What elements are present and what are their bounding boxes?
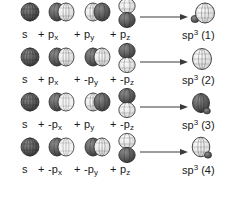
hybridization-row: s + -px + -py + pz sp3 (4)	[0, 135, 239, 185]
p-orbital-y-negative-icon	[84, 47, 112, 67]
p-orbital-z-negative-icon	[118, 88, 136, 118]
term-pz: + -pz	[110, 118, 134, 132]
term-px: + -px	[38, 163, 62, 177]
term-s: s	[22, 118, 28, 130]
right-arrow-icon	[140, 102, 188, 112]
result-label: sp3 (1)	[182, 28, 215, 41]
term-py: + -py	[74, 73, 98, 87]
term-pz: + pz	[110, 163, 130, 177]
term-px: + px	[38, 73, 58, 87]
p-orbital-x-negative-icon	[48, 137, 76, 157]
term-s: s	[22, 163, 28, 175]
term-pz: + -pz	[110, 73, 134, 87]
sp3-hybrid-orbital-icon	[190, 92, 216, 116]
term-py: + py	[74, 118, 94, 132]
term-s: s	[22, 28, 28, 40]
p-orbital-z-icon	[118, 0, 136, 28]
s-orbital-icon	[20, 47, 40, 67]
term-s: s	[22, 73, 28, 85]
term-px: + px	[38, 28, 58, 42]
p-orbital-y-icon	[84, 2, 112, 22]
s-orbital-icon	[20, 92, 40, 112]
sp3-hybrid-orbital-icon	[190, 47, 216, 71]
right-arrow-icon	[140, 147, 188, 157]
s-orbital-icon	[20, 137, 40, 157]
sp3-hybrid-orbital-icon	[190, 2, 216, 26]
term-py: + py	[74, 28, 94, 42]
p-orbital-x-icon	[48, 47, 76, 67]
term-px: + -px	[38, 118, 62, 132]
s-orbital-icon	[20, 2, 40, 22]
right-arrow-icon	[140, 12, 188, 22]
result-label: sp3 (2)	[182, 73, 215, 86]
term-pz: + pz	[110, 28, 130, 42]
sp3-hybrid-orbital-icon	[190, 137, 216, 161]
p-orbital-x-icon	[48, 2, 76, 22]
result-label: sp3 (4)	[182, 163, 215, 176]
p-orbital-x-negative-icon	[48, 92, 76, 112]
p-orbital-z-negative-icon	[118, 43, 136, 73]
sp3-hybridization-diagram: s + px + py + pz sp3 (1)	[0, 0, 239, 202]
p-orbital-z-icon	[118, 133, 136, 163]
p-orbital-y-negative-icon	[84, 137, 112, 157]
p-orbital-y-icon	[84, 92, 112, 112]
result-label: sp3 (3)	[182, 118, 215, 131]
right-arrow-icon	[140, 57, 188, 67]
term-py: + -py	[74, 163, 98, 177]
